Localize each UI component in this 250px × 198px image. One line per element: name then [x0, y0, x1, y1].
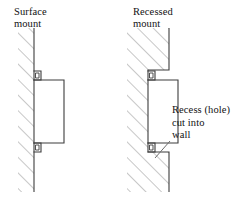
diagram-canvas: Surface mount Recessed mount Recess (hol… [0, 0, 250, 198]
panel-surface-mount [18, 28, 64, 192]
mounted-unit [34, 71, 64, 152]
annotation-recess-note: Recess (hole) cut into wall [172, 104, 230, 142]
wall-hatched-recessed [127, 28, 169, 192]
panel-title-recessed-mount: Recessed mount [133, 6, 173, 29]
diagram-svg [0, 0, 250, 198]
wall-hatched [18, 28, 34, 192]
panel-title-surface-mount: Surface mount [14, 6, 47, 29]
panel-recessed-mount [127, 28, 178, 192]
